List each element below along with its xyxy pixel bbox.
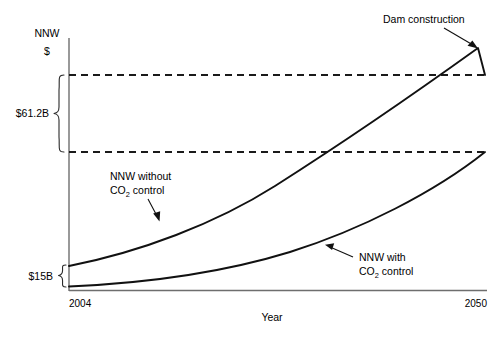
dam-construction-label: Dam construction [383,13,465,25]
dam-construction-leader [444,28,473,45]
gap-upper-value-label: $61.2B [16,107,49,119]
dam-construction-arrow-icon [468,41,479,49]
with-co2-label-line2: CO2 control [359,265,413,280]
with-co2-leader [330,247,353,257]
without-co2-label-rest: control [130,184,164,196]
with-co2-label-co: CO [359,265,375,277]
curve-nnw-without-co2-control [69,48,485,266]
chart-container: Dam construction NNW without CO2 control… [0,0,499,343]
y-axis-title-nnw: NNW [34,27,59,39]
with-co2-arrow-icon [325,243,334,250]
x-axis-tick-end: 2050 [465,298,488,309]
x-axis-tick-start: 2004 [69,298,92,309]
without-co2-label-co: CO [110,184,126,196]
with-co2-label-line1: NNW with [359,251,406,263]
gap-brace-lower [59,265,67,287]
x-axis-title: Year [261,311,283,323]
gap-lower-value-label: $15B [28,270,53,282]
without-co2-label-line2: CO2 control [110,184,164,199]
without-co2-arrow-icon [153,211,160,221]
gap-brace-upper [54,75,64,152]
y-axis-title-currency: $ [44,45,50,57]
nnw-projection-chart: Dam construction NNW without CO2 control… [0,0,499,343]
with-co2-label-rest: control [379,265,413,277]
without-co2-label-line1: NNW without [110,170,171,182]
